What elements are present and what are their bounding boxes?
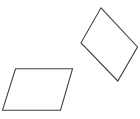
shapes-svg [0,0,140,119]
canvas-background [0,0,140,119]
figure-canvas [0,0,140,119]
